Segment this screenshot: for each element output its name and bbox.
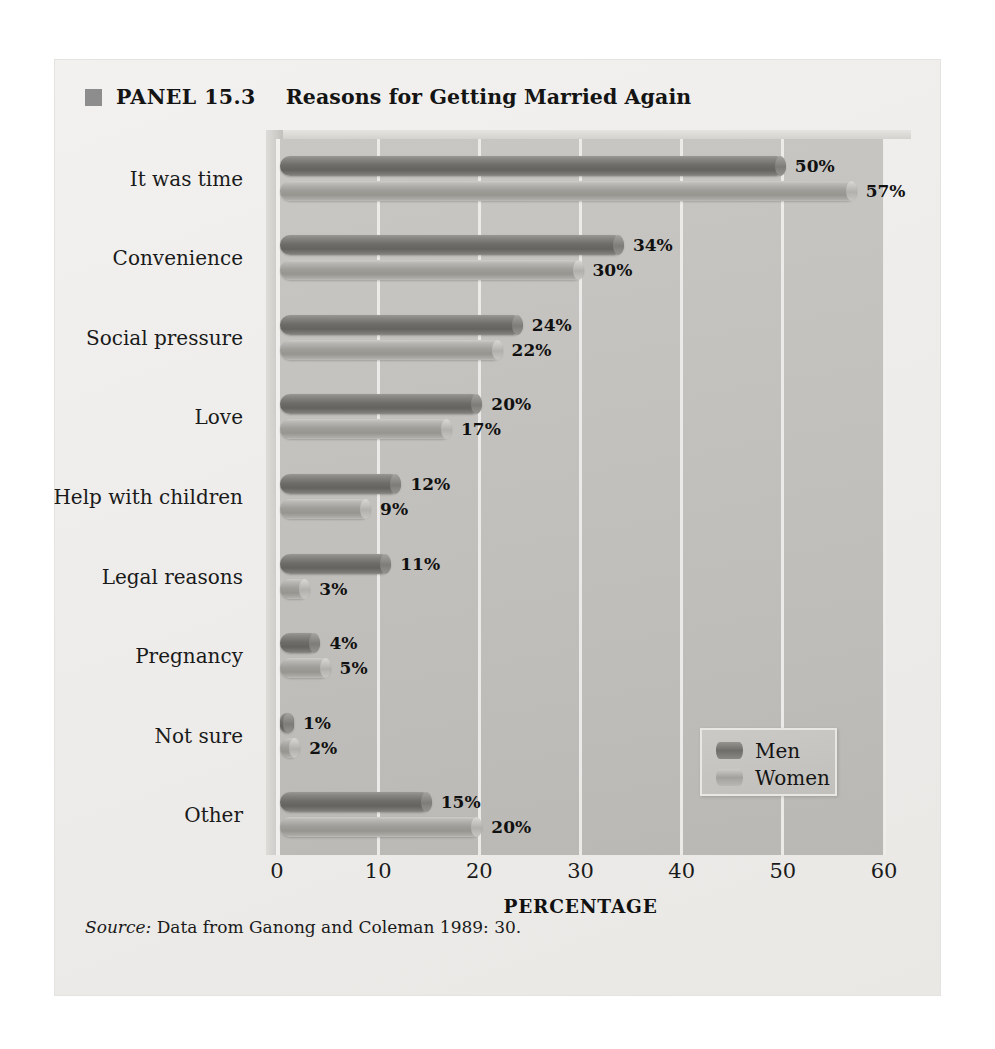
bar-women-2 (280, 340, 503, 360)
legend-label-women: Women (755, 766, 830, 790)
bar-value-women-8: 20% (491, 817, 531, 837)
bar-women-3 (280, 419, 452, 439)
category-label-1: Convenience (113, 246, 243, 270)
category-label-2: Social pressure (86, 326, 243, 350)
bar-value-men-4: 12% (410, 474, 450, 494)
bar-men-8 (280, 792, 432, 812)
bar-men-3 (280, 394, 482, 414)
bar-value-women-3: 17% (461, 419, 501, 439)
bar-women-5 (280, 579, 310, 599)
gridline-40 (680, 139, 683, 855)
bar-women-7 (280, 738, 300, 758)
bar-value-men-2: 24% (532, 315, 572, 335)
plot-top-edge (266, 130, 911, 139)
bar-value-women-0: 57% (866, 181, 906, 201)
bar-value-men-8: 15% (441, 792, 481, 812)
x-tick-label-60: 60 (871, 859, 898, 883)
x-tick-label-10: 10 (365, 859, 392, 883)
bar-value-women-1: 30% (593, 260, 633, 280)
x-tick-label-50: 50 (769, 859, 796, 883)
panel-container: PANEL 15.3 Reasons for Getting Married A… (55, 60, 940, 995)
x-tick-label-40: 40 (668, 859, 695, 883)
category-label-4: Help with children (53, 485, 243, 509)
bar-women-4 (280, 499, 371, 519)
bar-value-women-7: 2% (309, 738, 337, 758)
bar-women-0 (280, 181, 857, 201)
bar-men-1 (280, 235, 624, 255)
bar-value-men-3: 20% (491, 394, 531, 414)
bar-women-1 (280, 260, 584, 280)
bar-value-women-2: 22% (512, 340, 552, 360)
bar-men-0 (280, 156, 786, 176)
gridline-0 (276, 139, 280, 855)
legend-swatch-women-icon (716, 769, 743, 786)
legend-swatch-men-icon (716, 742, 743, 759)
bar-value-women-5: 3% (319, 579, 347, 599)
bar-value-men-1: 34% (633, 235, 673, 255)
legend-label-men: Men (755, 739, 800, 763)
bar-value-women-6: 5% (340, 658, 368, 678)
source-note: Source: Data from Ganong and Coleman 198… (85, 917, 521, 937)
category-label-5: Legal reasons (102, 565, 243, 589)
bar-value-women-4: 9% (380, 499, 408, 519)
category-label-0: It was time (130, 167, 243, 191)
bar-men-5 (280, 554, 391, 574)
x-axis: 0102030405060 (277, 855, 884, 881)
chart-legend: Men Women (700, 728, 837, 796)
bar-women-8 (280, 817, 482, 837)
bar-value-men-6: 4% (329, 633, 357, 653)
bar-value-men-5: 11% (400, 554, 440, 574)
category-label-3: Love (195, 405, 243, 429)
x-tick-label-0: 0 (270, 859, 283, 883)
bar-men-6 (280, 633, 320, 653)
source-label: Source: (85, 917, 151, 937)
x-axis-title: PERCENTAGE (277, 896, 884, 917)
category-label-8: Other (184, 803, 243, 827)
legend-item-men: Men (716, 737, 835, 764)
gridline-60 (883, 139, 886, 855)
bar-men-7 (280, 713, 294, 733)
source-text: Data from Ganong and Coleman 1989: 30. (151, 917, 521, 937)
bar-chart: 0102030405060 PERCENTAGE Men Women It wa… (55, 60, 940, 995)
legend-item-women: Women (716, 764, 835, 791)
bar-women-6 (280, 658, 331, 678)
category-label-6: Pregnancy (135, 644, 243, 668)
bar-value-men-7: 1% (303, 713, 331, 733)
x-tick-label-20: 20 (466, 859, 493, 883)
category-label-7: Not sure (155, 724, 243, 748)
bar-men-2 (280, 315, 523, 335)
x-tick-label-30: 30 (567, 859, 594, 883)
bar-men-4 (280, 474, 401, 494)
bar-value-men-0: 50% (795, 156, 835, 176)
